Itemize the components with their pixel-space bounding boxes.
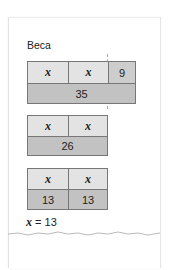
bar1-total: 35 xyxy=(28,83,135,103)
bar3-cell-x2: x xyxy=(68,169,107,189)
answer-equation: x = 13 xyxy=(26,215,57,230)
answer-equals: = xyxy=(35,216,41,228)
bar3-cell-x1: x xyxy=(28,169,68,189)
bar2-total: 26 xyxy=(28,136,107,155)
bar1-cell-constant: 9 xyxy=(108,62,135,83)
answer-value: 13 xyxy=(45,216,57,228)
bar3-value-2: 13 xyxy=(68,189,107,209)
bar1-cell-x2: x xyxy=(68,62,108,83)
torn-edge xyxy=(8,229,160,239)
bar2-cell-x2: x xyxy=(68,116,107,136)
answer-variable: x xyxy=(26,215,32,229)
bar2-cell-x1: x xyxy=(28,116,68,136)
student-name: Beca xyxy=(27,39,51,51)
bar1-cell-x1: x xyxy=(28,62,68,83)
bar-model-2: x x 26 xyxy=(27,115,108,156)
bar3-value-1: 13 xyxy=(28,189,68,209)
bar-model-3: x x 13 13 xyxy=(27,168,108,210)
bar-model-1: x x 9 35 xyxy=(27,61,136,104)
